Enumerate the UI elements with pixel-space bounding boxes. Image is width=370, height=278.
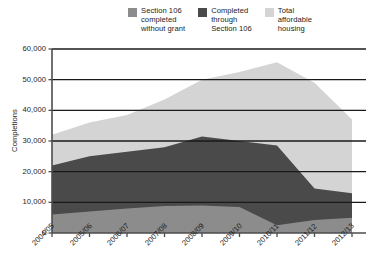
- area-series-group: [52, 62, 352, 233]
- y-axis-tick-label: 10,000: [4, 197, 46, 206]
- y-axis-tick-label: 60,000: [4, 44, 46, 53]
- y-axis-tick-label: 50,000: [4, 75, 46, 84]
- stacked-area-chart: Completions 010,00020,00030,00040,00050,…: [0, 0, 370, 278]
- y-axis-tick-label: 20,000: [4, 167, 46, 176]
- y-axis-tick-label: 30,000: [4, 136, 46, 145]
- y-axis-tick-label: 40,000: [4, 105, 46, 114]
